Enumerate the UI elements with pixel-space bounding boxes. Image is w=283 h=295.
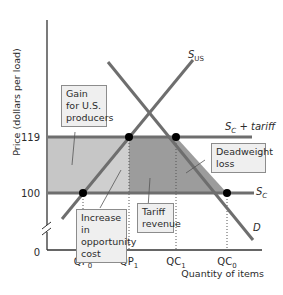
- y-axis-title: Price (dollars per load): [11, 48, 22, 156]
- box-text: Gain: [66, 88, 102, 100]
- box-text: Increase in: [81, 212, 122, 236]
- tariff-revenue-box: Tariff revenue: [137, 203, 174, 233]
- sc-tariff-label: SC + tariff: [225, 121, 277, 135]
- box-text: producers: [66, 112, 102, 124]
- opportunity-cost-box: Increase in opportunity cost: [76, 209, 127, 263]
- tariff-revenue-region: [129, 137, 176, 193]
- box-text: Tariff: [142, 206, 169, 218]
- tick-0: 0: [34, 247, 40, 258]
- tick-100: 100: [21, 188, 40, 199]
- point-qc0: [223, 189, 231, 197]
- sc-label: SC: [256, 186, 267, 200]
- point-qp1: [125, 133, 133, 141]
- deadweight-loss-box: Deadweight loss: [211, 143, 266, 173]
- box-text: for U.S.: [66, 100, 102, 112]
- point-qp0: [79, 189, 87, 197]
- box-text: opportunity: [81, 236, 122, 248]
- x-axis-title: Quantity of items: [181, 268, 264, 279]
- box-text: revenue: [142, 218, 169, 230]
- tick-119: 119: [21, 132, 40, 143]
- box-text: Deadweight: [216, 146, 261, 158]
- gain-for-producers-box: Gain for U.S. producers: [61, 85, 107, 127]
- point-qc1: [172, 133, 180, 141]
- box-text: cost: [81, 248, 122, 260]
- d-label: D: [253, 222, 261, 233]
- box-text: loss: [216, 158, 261, 170]
